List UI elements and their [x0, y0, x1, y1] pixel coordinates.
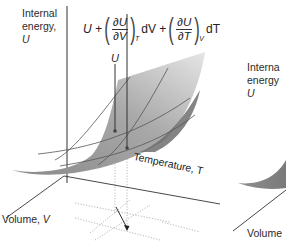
term2-subscript: V: [199, 35, 204, 42]
term1-denominator: ∂V: [113, 30, 126, 43]
internal-energy-line2: energy,: [22, 20, 57, 33]
paren-close-2: ): [195, 14, 201, 44]
paren-open-1: (: [104, 14, 110, 44]
internal-energy-symbol: U: [22, 33, 57, 46]
term2-denominator: ∂T: [178, 30, 191, 43]
volume-label-symbol: V: [43, 213, 50, 225]
internal-energy-line1: Internal: [22, 7, 57, 20]
right-internal-energy-label: Interna energy U: [247, 61, 280, 100]
point-u-plus-du: [125, 146, 129, 150]
right-volume-axis: [233, 190, 286, 231]
total-differential-equation: U + ( ∂U ∂V ) T dV + ( ∂U ∂T ) V dT: [83, 14, 220, 44]
internal-energy-label: Internal energy, U: [22, 7, 57, 46]
eq-lead: U +: [83, 22, 102, 36]
partial-u-partial-v: ∂U ∂V: [112, 16, 128, 43]
term2-numerator: ∂U: [176, 16, 192, 30]
volume-label-text: Volume,: [2, 213, 43, 225]
point-u: [113, 129, 117, 133]
right-internal-energy-symbol: U: [247, 87, 280, 100]
arrow-head: [124, 225, 130, 231]
volume-axis: [6, 176, 64, 218]
right-internal-energy-line1: Interna: [247, 61, 280, 74]
displacement-arrow: [116, 207, 127, 228]
right-volume-axis-label: Volume: [247, 227, 282, 240]
term1-tail: dV +: [141, 22, 166, 36]
paren-close-1: ): [130, 14, 136, 44]
paren-open-2: (: [169, 14, 175, 44]
term2-tail: dT: [206, 22, 220, 36]
point-u-label: U: [111, 52, 119, 65]
partial-u-partial-t: ∂U ∂T: [176, 16, 192, 43]
term1-numerator: ∂U: [112, 16, 128, 30]
temperature-axis: [64, 176, 220, 204]
right-internal-energy-line2: energy: [247, 74, 280, 87]
volume-axis-label: Volume, V: [2, 213, 50, 226]
right-panel-surface: [238, 160, 286, 189]
